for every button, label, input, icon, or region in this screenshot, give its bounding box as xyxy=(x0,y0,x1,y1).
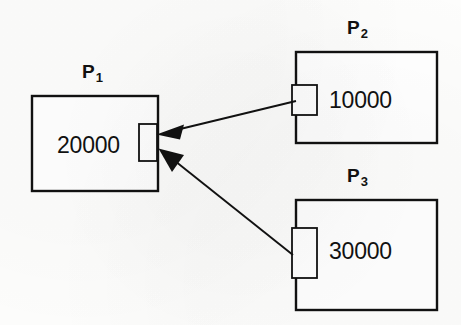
node-p2-label-subscript: 2 xyxy=(361,26,368,41)
edge-p3-to-p1-arrowhead xyxy=(159,149,185,173)
edge-p2-to-p1-line xyxy=(176,101,296,130)
node-p2-label-text: P xyxy=(347,17,360,38)
node-p1-label: P1 xyxy=(82,62,102,81)
node-p3-label-text: P xyxy=(347,165,360,186)
diagram-canvas: P1 P2 P3 20000 10000 30000 xyxy=(0,0,461,325)
node-p3-value: 30000 xyxy=(329,240,392,263)
edge-p2-to-p1[interactable] xyxy=(157,101,297,140)
node-p1-value: 20000 xyxy=(57,134,120,157)
node-p3-label: P3 xyxy=(347,166,367,185)
node-p2-value: 10000 xyxy=(329,89,392,112)
node-p3-port[interactable] xyxy=(292,228,317,278)
node-p1-port[interactable] xyxy=(139,124,157,161)
node-p3-label-subscript: 3 xyxy=(361,174,368,189)
diagram-vector-layer xyxy=(0,0,461,325)
node-p1-label-subscript: 1 xyxy=(96,70,103,85)
node-p2-label: P2 xyxy=(347,18,367,37)
edge-p3-to-p1-line xyxy=(175,161,293,255)
edge-p2-to-p1-arrowhead xyxy=(157,125,185,140)
node-p1-label-text: P xyxy=(82,61,95,82)
node-p2-port[interactable] xyxy=(292,85,317,115)
edge-p3-to-p1[interactable] xyxy=(159,149,294,256)
